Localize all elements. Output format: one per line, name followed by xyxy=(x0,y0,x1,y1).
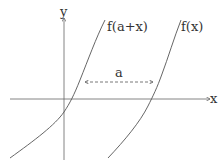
curve-label-f-x: f(x) xyxy=(181,20,203,33)
y-axis-label: y xyxy=(60,5,67,18)
x-axis-label: x xyxy=(210,92,217,105)
shift-label: a xyxy=(115,66,123,79)
diagram-canvas: y x f(a+x) f(x) a xyxy=(0,0,221,166)
curve-f-a-plus-x xyxy=(10,20,105,158)
curve-f-x xyxy=(108,20,181,158)
curve-label-f-a-plus-x: f(a+x) xyxy=(107,20,148,33)
